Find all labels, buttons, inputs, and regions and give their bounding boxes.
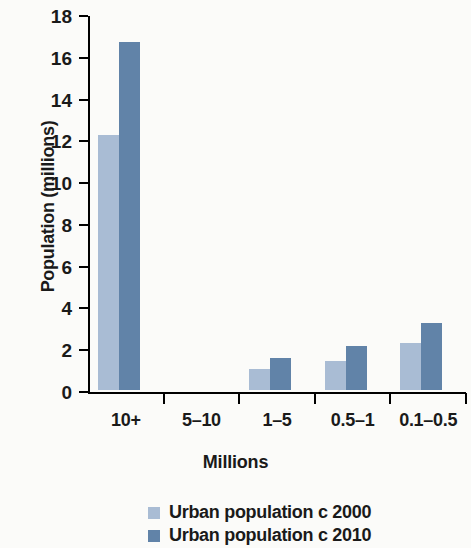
- bar-group: [315, 14, 391, 390]
- y-tick-label: 2: [61, 341, 72, 360]
- bar-group: [390, 14, 466, 390]
- y-tick-label: 12: [51, 132, 72, 151]
- y-tick: 12: [79, 140, 88, 142]
- y-tick: 6: [79, 266, 88, 268]
- y-tick: 16: [79, 57, 88, 59]
- bar: [270, 358, 291, 390]
- legend-swatch: [148, 507, 160, 519]
- bar: [119, 42, 140, 390]
- chart-legend: Urban population c 2000Urban population …: [148, 501, 371, 547]
- bar: [325, 361, 346, 390]
- legend-item: Urban population c 2000: [148, 501, 371, 524]
- y-tick: 0: [79, 391, 88, 393]
- y-tick: 10: [79, 182, 88, 184]
- legend-item: Urban population c 2010: [148, 524, 371, 547]
- y-tick: 4: [79, 307, 88, 309]
- y-tick: 18: [79, 15, 88, 17]
- legend-label: Urban population c 2000: [169, 502, 371, 523]
- legend-swatch: [148, 530, 160, 542]
- x-axis-tick-label: 0.1–0.5: [383, 410, 471, 431]
- x-tick: [389, 393, 391, 404]
- legend-label: Urban population c 2010: [169, 525, 371, 546]
- x-axis-title: Millions: [0, 452, 471, 473]
- bar-chart-figure: Population (millions) 024681012141618 10…: [0, 0, 471, 548]
- bar: [98, 135, 119, 390]
- plot-area: 024681012141618 10+5–101–50.5–10.1–0.5: [88, 16, 466, 392]
- y-tick-label: 14: [51, 90, 72, 109]
- x-tick: [314, 393, 316, 404]
- bar-group: [88, 14, 164, 390]
- y-tick: 14: [79, 99, 88, 101]
- y-tick-label: 6: [61, 257, 72, 276]
- y-tick-label: 16: [51, 48, 72, 67]
- y-tick-label: 18: [51, 7, 72, 26]
- y-tick-label: 8: [61, 215, 72, 234]
- y-tick-label: 10: [51, 174, 72, 193]
- bar: [249, 369, 270, 390]
- bar-group: [164, 14, 240, 390]
- bar: [346, 346, 367, 390]
- x-tick: [465, 393, 467, 404]
- y-tick-label: 0: [61, 383, 72, 402]
- y-tick: 2: [79, 349, 88, 351]
- bar-group: [239, 14, 315, 390]
- x-tick: [238, 393, 240, 404]
- bar: [400, 343, 421, 390]
- bar: [421, 323, 442, 390]
- y-tick: 8: [79, 224, 88, 226]
- x-axis-line: [88, 392, 466, 394]
- x-tick: [163, 393, 165, 404]
- y-tick-label: 4: [61, 299, 72, 318]
